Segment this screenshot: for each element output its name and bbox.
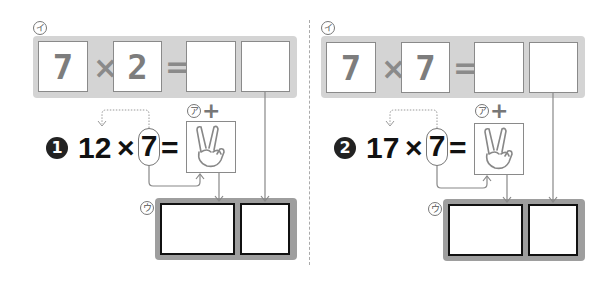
connector-arrows xyxy=(290,0,595,281)
problem-1: イ 7 × 2 = 1 12 × 7 = ア + ウ xyxy=(0,0,305,281)
problem-2: イ 7 × 7 = 2 17 × 7 = ア + ウ xyxy=(290,0,595,281)
connector-arrows xyxy=(0,0,305,281)
